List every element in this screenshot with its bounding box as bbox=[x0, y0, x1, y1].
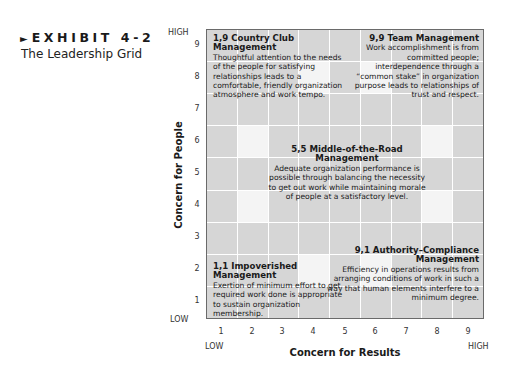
country-club-management-block: 1,9 Country Club Management Thoughtful a… bbox=[213, 34, 343, 100]
x-tick: 4 bbox=[308, 327, 318, 336]
exhibit-number: EXHIBIT 4-2 bbox=[32, 30, 155, 45]
x-tick: 9 bbox=[463, 327, 473, 336]
y-tick: 6 bbox=[193, 136, 201, 145]
figure-title: The Leadership Grid bbox=[21, 47, 142, 61]
y-axis-title: Concern for People bbox=[173, 121, 184, 229]
y-tick: 2 bbox=[193, 264, 201, 273]
style-description: Efficiency in operations results from ar… bbox=[326, 265, 479, 303]
x-axis-title: Concern for Results bbox=[290, 347, 401, 358]
x-tick: 7 bbox=[401, 327, 411, 336]
style-title: 5,5 Middle-of-the-Road Management bbox=[266, 145, 428, 164]
style-title: 1,9 Country Club Management bbox=[213, 34, 343, 53]
y-tick: 1 bbox=[193, 296, 201, 305]
middle-of-the-road-block: 5,5 Middle-of-the-Road Management Adequa… bbox=[266, 145, 428, 201]
x-tick: 8 bbox=[432, 327, 442, 336]
y-tick: 5 bbox=[193, 168, 201, 177]
y-tick: 3 bbox=[193, 232, 201, 241]
style-description: Work accomplishment is from committed pe… bbox=[346, 43, 479, 99]
y-tick: 8 bbox=[193, 72, 201, 81]
style-title: 9,9 Team Management bbox=[346, 34, 479, 43]
x-tick: 2 bbox=[247, 327, 257, 336]
team-management-block: 9,9 Team Management Work accomplishment … bbox=[346, 34, 479, 100]
triangle-arrow-icon: ► bbox=[20, 33, 28, 44]
x-tick: 3 bbox=[277, 327, 287, 336]
style-title: 1,1 Impoverished Management bbox=[213, 262, 343, 281]
y-tick: 4 bbox=[193, 200, 201, 209]
y-axis-low-label: LOW bbox=[170, 315, 188, 324]
authority-compliance-block: 9,1 Authority–Compliance Management Effi… bbox=[326, 246, 479, 302]
y-tick: 9 bbox=[193, 40, 201, 49]
style-title: 9,1 Authority–Compliance Management bbox=[326, 246, 479, 265]
x-tick: 1 bbox=[216, 327, 226, 336]
x-tick: 5 bbox=[340, 327, 350, 336]
impoverished-management-block: 1,1 Impoverished Management Exertion of … bbox=[213, 262, 343, 318]
y-tick: 7 bbox=[193, 104, 201, 113]
exhibit-label: ►EXHIBIT 4-2 bbox=[20, 30, 154, 45]
style-description: Exertion of minimum effort to get requir… bbox=[213, 281, 343, 319]
style-description: Thoughtful attention to the needs of the… bbox=[213, 53, 343, 100]
x-axis-high-label: HIGH bbox=[468, 342, 489, 351]
y-axis-high-label: HIGH bbox=[168, 28, 189, 37]
style-description: Adequate organization performance is pos… bbox=[266, 164, 428, 202]
x-axis-low-label: LOW bbox=[205, 342, 223, 351]
x-tick: 6 bbox=[370, 327, 380, 336]
